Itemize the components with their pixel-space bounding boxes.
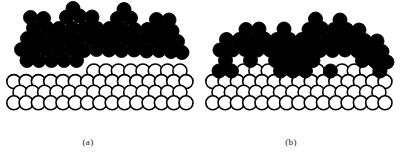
adatom (220, 33, 234, 47)
adatom (66, 2, 80, 16)
adatom (252, 22, 266, 36)
adatom (309, 12, 323, 26)
substrate-atom (179, 96, 193, 110)
substrate-atom (378, 96, 392, 110)
panel-a-caption: (a) (83, 137, 94, 147)
panel-b-caption: (b) (285, 137, 296, 147)
adatom (239, 23, 253, 37)
adatom (85, 10, 99, 24)
adatom (333, 13, 347, 27)
atomic-growth-diagram (0, 0, 401, 155)
adatom (24, 11, 38, 25)
adatom (370, 34, 384, 48)
adatom (37, 12, 51, 26)
adatom (352, 23, 366, 37)
figure-root: (a) (b) (0, 0, 401, 155)
adatom (117, 3, 131, 17)
adatom (162, 13, 176, 27)
adatom (150, 13, 164, 27)
adatom (277, 22, 291, 36)
adatom (324, 64, 338, 78)
